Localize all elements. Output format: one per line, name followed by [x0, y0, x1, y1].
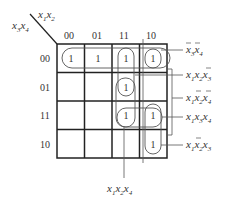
col-label: 01 — [92, 30, 102, 41]
term-5: x1x2x3 — [185, 138, 212, 153]
cell: 1 — [151, 139, 156, 150]
term-1: x3x4 — [185, 43, 203, 58]
row-label: 11 — [40, 110, 50, 121]
row-label: 00 — [40, 53, 50, 64]
cell: 1 — [151, 53, 156, 64]
cell: 1 — [124, 110, 129, 121]
row-variable-label: x3x4 — [11, 19, 29, 34]
cell: 1 — [69, 53, 74, 64]
term-2: x1x2x3 — [185, 68, 212, 83]
col-label: 00 — [64, 30, 74, 41]
col-variable-label: x1x2 — [37, 8, 55, 23]
karnaugh-map: x1x2 x3x4 00 01 11 10 00 01 11 10 1 1 1 … — [0, 0, 237, 205]
term-6: x1x2x4 — [106, 182, 133, 197]
term-4: x1x3x4 — [185, 110, 212, 125]
cell: 1 — [124, 82, 129, 93]
row-label: 01 — [40, 82, 50, 93]
row-label: 10 — [40, 139, 50, 150]
col-label: 11 — [119, 30, 129, 41]
cell: 1 — [124, 53, 129, 64]
cell: 1 — [96, 53, 101, 64]
column-labels: 00 01 11 10 — [64, 30, 156, 41]
term-3: x1x2x4 — [185, 91, 212, 106]
col-label: 10 — [146, 30, 156, 41]
row-labels: 00 01 11 10 — [40, 53, 50, 150]
cell: 1 — [151, 110, 156, 121]
